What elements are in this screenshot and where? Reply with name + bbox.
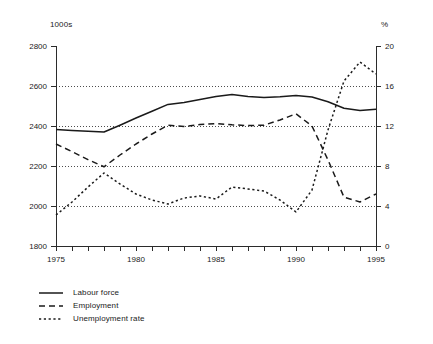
svg-text:8: 8 bbox=[385, 162, 390, 171]
series-line-employment bbox=[56, 114, 376, 202]
svg-text:1975: 1975 bbox=[47, 255, 65, 264]
svg-text:1990: 1990 bbox=[287, 255, 305, 264]
svg-text:12: 12 bbox=[385, 122, 394, 131]
legend-label-unemployment-rate: Unemployment rate bbox=[73, 314, 145, 323]
svg-text:1995: 1995 bbox=[367, 255, 385, 264]
svg-text:20: 20 bbox=[385, 42, 394, 51]
axes bbox=[56, 46, 376, 246]
legend-label-labour-force: Labour force bbox=[73, 288, 119, 297]
data-series bbox=[56, 62, 376, 215]
svg-text:1800: 1800 bbox=[29, 242, 47, 251]
legend-item-labour-force: Labour force bbox=[38, 286, 145, 299]
legend-line-dashed-icon bbox=[38, 301, 64, 311]
tick-labels: 1800200022002400260028000481216201975198… bbox=[29, 42, 394, 264]
legend-item-unemployment-rate: Unemployment rate bbox=[38, 312, 145, 325]
legend-item-employment: Employment bbox=[38, 299, 145, 312]
legend-line-dotted-icon bbox=[38, 314, 64, 324]
legend-label-employment: Employment bbox=[73, 301, 118, 310]
svg-text:2800: 2800 bbox=[29, 42, 47, 51]
chart-legend: Labour force Employment Unemployment rat… bbox=[38, 286, 145, 325]
svg-text:2600: 2600 bbox=[29, 82, 47, 91]
legend-line-solid-icon bbox=[38, 288, 64, 298]
svg-text:4: 4 bbox=[385, 202, 390, 211]
svg-text:0: 0 bbox=[385, 242, 390, 251]
series-line-unemployment-rate bbox=[56, 62, 376, 215]
svg-text:1980: 1980 bbox=[127, 255, 145, 264]
svg-text:2400: 2400 bbox=[29, 122, 47, 131]
svg-text:1985: 1985 bbox=[207, 255, 225, 264]
svg-text:16: 16 bbox=[385, 82, 394, 91]
chart-container: 1000s % 18002000220024002600280004812162… bbox=[0, 0, 433, 344]
tick-marks bbox=[51, 46, 381, 251]
gridlines bbox=[56, 86, 376, 206]
svg-text:2200: 2200 bbox=[29, 162, 47, 171]
svg-text:2000: 2000 bbox=[29, 202, 47, 211]
